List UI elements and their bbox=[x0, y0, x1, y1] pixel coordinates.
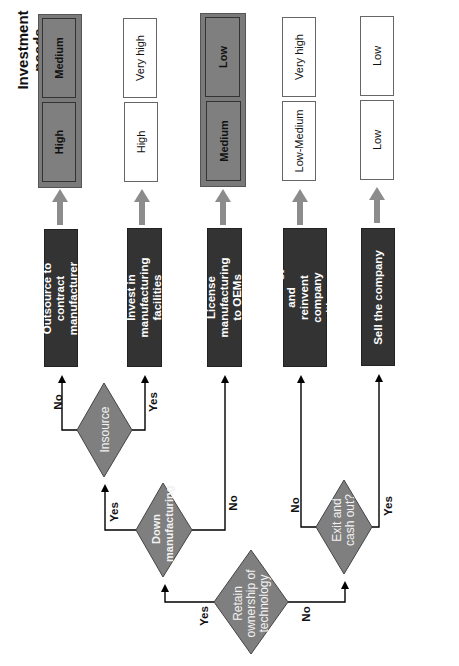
retain-yes-label: Yes bbox=[198, 606, 210, 626]
action-sell-technology: Sell technology and reinvent company wit… bbox=[283, 228, 327, 367]
insource-yes-label: Yes bbox=[147, 392, 159, 412]
retain-no-label: No bbox=[300, 606, 312, 621]
exit-cash-out-label: Exit and cash out? bbox=[331, 490, 357, 550]
down-yes-label: Yes bbox=[108, 502, 120, 522]
exit-yes-label: Yes bbox=[382, 496, 394, 516]
insource-label: Insource bbox=[99, 404, 112, 456]
insource-no-label: No bbox=[52, 394, 64, 409]
action-invest: Invest in manufacturing facilities bbox=[127, 228, 162, 367]
gray-arrow-icons bbox=[52, 187, 385, 225]
down-no-label: No bbox=[227, 495, 239, 510]
down-manufacturing-label: Down manufacturing bbox=[150, 496, 176, 562]
exit-no-label: No bbox=[289, 497, 301, 512]
action-license: License manufacturing to OEMs bbox=[207, 228, 242, 367]
action-outsource: Outsource to contract manufacturer bbox=[44, 229, 78, 367]
action-sell-company: Sell the company bbox=[361, 228, 395, 366]
retain-ownership-label: Retain ownership of technology bbox=[232, 559, 271, 649]
